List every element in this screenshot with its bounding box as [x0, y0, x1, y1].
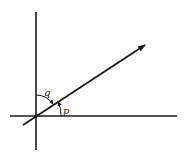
angle-diagram: q p — [0, 0, 187, 167]
vector-arrow — [23, 45, 145, 125]
angle-q-label: q — [44, 87, 50, 98]
angle-p-label: p — [63, 105, 70, 116]
angle-p-arc — [58, 102, 61, 116]
